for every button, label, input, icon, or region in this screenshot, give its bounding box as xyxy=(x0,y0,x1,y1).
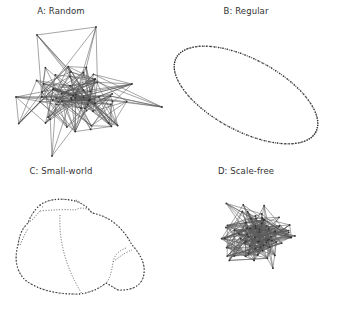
network-node xyxy=(103,284,104,285)
small-world-shortcut xyxy=(113,250,132,262)
network-node xyxy=(85,292,86,293)
network-node xyxy=(278,216,280,218)
network-node xyxy=(21,275,22,276)
network-node xyxy=(143,272,144,273)
network-node xyxy=(317,127,319,129)
network-node xyxy=(47,116,49,118)
network-node xyxy=(138,253,139,254)
network-node xyxy=(92,110,94,112)
panel-title-random: A: Random xyxy=(37,6,84,16)
network-node xyxy=(116,224,117,225)
small-world-shortcut xyxy=(28,211,40,223)
network-node xyxy=(102,216,103,217)
network-node xyxy=(315,131,317,133)
network-node xyxy=(301,141,303,143)
ring-lattice-edges xyxy=(159,26,332,164)
network-node xyxy=(16,260,17,261)
network-node xyxy=(269,246,271,248)
network-node xyxy=(216,119,218,121)
network-node xyxy=(66,126,68,128)
network-edge xyxy=(70,77,98,83)
network-node xyxy=(111,286,112,287)
network-node xyxy=(197,104,199,106)
network-node xyxy=(220,121,222,123)
network-node xyxy=(294,84,296,86)
network-node xyxy=(306,139,308,141)
network-node xyxy=(178,53,180,55)
network-node xyxy=(28,220,29,221)
regular-ring-lattice xyxy=(159,26,332,164)
network-node xyxy=(317,120,319,122)
network-node xyxy=(129,240,130,241)
network-node xyxy=(55,97,57,99)
network-node xyxy=(91,290,92,291)
network-node xyxy=(83,72,85,74)
random-network xyxy=(15,26,163,157)
network-node xyxy=(53,88,55,90)
network-node xyxy=(228,126,230,128)
network-node xyxy=(132,245,133,246)
network-node xyxy=(119,227,120,228)
network-node xyxy=(136,285,137,286)
network-node xyxy=(304,140,306,142)
network-node xyxy=(117,125,119,127)
network-node xyxy=(127,237,128,238)
network-node xyxy=(90,125,92,127)
network-node xyxy=(70,71,72,73)
network-node xyxy=(242,204,244,206)
network-node xyxy=(290,237,292,239)
network-node xyxy=(214,46,216,48)
network-node xyxy=(144,268,145,269)
network-node xyxy=(288,230,290,232)
network-node xyxy=(181,86,183,88)
network-node xyxy=(255,137,257,139)
network-node xyxy=(290,81,292,83)
network-node xyxy=(234,229,236,231)
network-node xyxy=(277,142,279,144)
network-node xyxy=(130,242,131,243)
network-node xyxy=(58,101,60,103)
network-node xyxy=(254,236,256,238)
network-node xyxy=(292,143,294,145)
network-node xyxy=(112,100,114,102)
network-node xyxy=(308,100,310,102)
network-node xyxy=(185,92,187,94)
network-node xyxy=(71,99,73,101)
network-node xyxy=(61,93,63,95)
network-node xyxy=(68,199,69,200)
network-node xyxy=(275,70,277,72)
network-node xyxy=(267,257,269,259)
network-node xyxy=(39,101,41,103)
network-node xyxy=(240,238,242,240)
network-node xyxy=(258,241,260,243)
network-node xyxy=(108,122,110,124)
network-node xyxy=(82,293,83,294)
network-node xyxy=(34,285,35,286)
network-node xyxy=(74,97,76,99)
network-node xyxy=(23,278,24,279)
network-node xyxy=(41,96,43,98)
network-node xyxy=(16,253,17,254)
network-node xyxy=(260,139,262,141)
network-node xyxy=(271,240,273,242)
network-node xyxy=(62,293,63,294)
network-edge xyxy=(50,119,52,156)
network-node xyxy=(174,69,176,71)
network-node xyxy=(244,242,246,244)
network-node xyxy=(125,234,126,235)
network-node xyxy=(176,77,178,79)
network-node xyxy=(15,257,16,258)
network-node xyxy=(300,90,302,92)
network-node xyxy=(75,293,76,294)
network-node xyxy=(42,203,43,204)
network-node xyxy=(231,50,233,52)
network-node xyxy=(29,217,30,218)
network-node xyxy=(225,203,227,205)
network-node xyxy=(310,103,312,105)
network-node xyxy=(49,291,50,292)
network-node xyxy=(94,79,96,81)
network-node xyxy=(27,223,28,224)
network-node xyxy=(208,113,210,115)
network-node xyxy=(98,96,100,98)
network-node xyxy=(268,228,270,230)
